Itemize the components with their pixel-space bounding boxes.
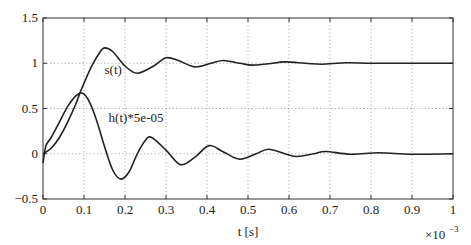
x-tick-label: 0.6 <box>281 202 298 217</box>
x-tick-label: 0.4 <box>199 202 216 217</box>
curve-label: h(t)*5e-05 <box>109 110 164 125</box>
x-axis-label: t [s] <box>238 224 259 239</box>
x-multiplier-text: ×10 <box>425 227 445 242</box>
x-tick-label: 0.8 <box>363 202 379 217</box>
y-tick-label: 0 <box>32 146 39 161</box>
x-tick-label: 0.3 <box>158 202 174 217</box>
x-axis-multiplier: ×10 −3 <box>425 224 459 242</box>
x-tick-label: 1 <box>450 202 457 217</box>
x-tick-label: 0.7 <box>322 202 339 217</box>
x-multiplier-exponent: −3 <box>449 224 459 234</box>
x-tick-label: 0.2 <box>117 202 133 217</box>
y-axis-ticks: −0.500.511.5 <box>14 10 453 206</box>
line-chart: 00.10.20.30.40.50.60.70.80.91 −0.500.511… <box>0 0 471 245</box>
x-tick-label: 0.1 <box>76 202 92 217</box>
curve-labels: s(t)h(t)*5e-05 <box>105 62 164 125</box>
y-tick-label: −0.5 <box>14 191 38 206</box>
curve-label: s(t) <box>105 62 122 77</box>
y-tick-label: 0.5 <box>22 101 38 116</box>
x-tick-label: 0 <box>40 202 47 217</box>
gridlines <box>43 18 453 199</box>
x-tick-label: 0.5 <box>240 202 256 217</box>
y-tick-label: 1 <box>32 55 39 70</box>
x-tick-label: 0.9 <box>404 202 420 217</box>
y-tick-label: 1.5 <box>22 10 38 25</box>
